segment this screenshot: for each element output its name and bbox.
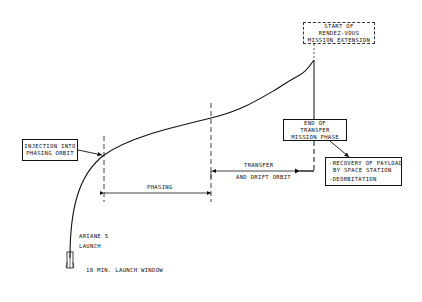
- injection-line2: PHASING ORBIT: [26, 150, 74, 157]
- end-transfer-line3: MISSION PHASE: [291, 134, 339, 141]
- injection-line1: INJECTION INTO: [24, 143, 75, 150]
- injection-box: INJECTION INTO PHASING ORBIT: [22, 139, 78, 161]
- launch-window-label: 10 MIN. LAUNCH WINDOW: [86, 267, 163, 274]
- mission-profile-diagram: START OF RENDEZ-VOUS MISSION EXTENSION E…: [0, 0, 422, 302]
- end-transfer-line1: END OF: [304, 120, 326, 127]
- phasing-label: PHASING: [147, 184, 173, 191]
- start-extension-box: START OF RENDEZ-VOUS MISSION EXTENSION: [303, 22, 375, 44]
- transfer-label: TRANSFER: [244, 162, 273, 169]
- trajectory-curve: [70, 60, 314, 258]
- start-extension-line1: START OF: [324, 23, 353, 30]
- rocket-icon: [66, 252, 74, 268]
- recovery-line3: -DEORBITATION: [329, 176, 377, 183]
- start-extension-line2: RENDEZ-VOUS: [319, 30, 359, 37]
- recovery-box: -RECOVERY OF PAYLOAD BY SPACE STATION -D…: [325, 157, 402, 186]
- start-extension-line3: MISSION EXTENSION: [308, 37, 370, 44]
- launch-label: LAUNCH: [79, 243, 101, 250]
- end-transfer-line2: TRANSFER: [300, 127, 329, 134]
- end-transfer-box: END OF TRANSFER MISSION PHASE: [283, 119, 347, 141]
- recovery-arrow: [330, 141, 349, 157]
- drift-orbit-label: AND DRIFT ORBIT: [236, 174, 291, 181]
- recovery-line2: BY SPACE STATION: [329, 167, 392, 174]
- injection-arrow: [78, 150, 102, 155]
- recovery-line1: -RECOVERY OF PAYLOAD: [329, 160, 402, 167]
- launch-vehicle-label: ARIANE 5: [79, 233, 108, 240]
